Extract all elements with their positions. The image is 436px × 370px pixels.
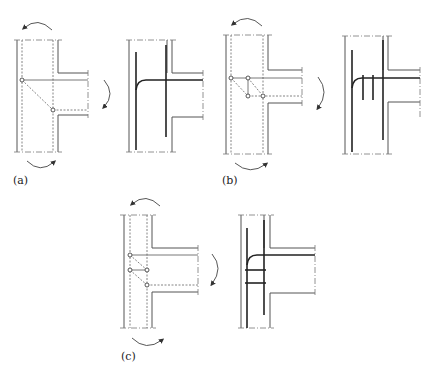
moment-arrow-icon	[132, 338, 162, 346]
panel-c-strut-model: (c)	[120, 198, 218, 363]
moment-arrow-icon	[27, 161, 54, 168]
moment-arrow-icon	[235, 163, 266, 170]
node	[51, 108, 55, 112]
node	[128, 268, 132, 272]
node	[145, 283, 149, 287]
moment-arrow-icon	[132, 198, 160, 206]
moment-arrow-icon	[212, 254, 218, 284]
panel-a-strut-model: (a)	[13, 22, 110, 187]
panel-c-reinforcement	[238, 215, 315, 328]
node	[128, 253, 132, 257]
moment-arrow-icon	[233, 18, 262, 26]
moment-arrow-icon	[318, 77, 324, 108]
panel-b-strut-model: (b)	[222, 18, 324, 187]
panel-label-c: (c)	[121, 350, 136, 363]
panel-b-reinforcement	[342, 36, 420, 154]
node	[145, 268, 149, 272]
node	[261, 94, 265, 98]
panel-label-b: (b)	[222, 174, 238, 187]
moment-arrow-icon	[104, 80, 110, 107]
node	[20, 78, 24, 82]
panel-label-a: (a)	[13, 174, 28, 187]
node	[246, 76, 250, 80]
panel-a-reinforcement	[126, 40, 203, 152]
node	[229, 76, 233, 80]
moment-arrow-icon	[24, 22, 52, 30]
node	[246, 94, 250, 98]
